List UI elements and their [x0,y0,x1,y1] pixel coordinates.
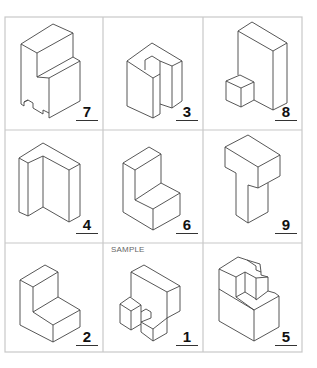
figure-number-1: 1 [176,329,198,346]
isometric-figure-grid [0,0,317,368]
shape-4-drawing [19,143,80,222]
shape-9-drawing [225,135,280,223]
figure-number-2: 2 [76,329,98,346]
figure-number-3: 3 [176,104,198,121]
shape-3-drawing [127,43,182,118]
shape-6-drawing [123,147,180,230]
figure-number-7: 7 [76,104,98,121]
shape-5-drawing [219,257,279,341]
shape-8-drawing [226,22,287,110]
figure-number-6: 6 [176,217,198,234]
figure-number-4: 4 [76,217,98,234]
figure-number-9: 9 [275,217,297,234]
shape-7-drawing [21,24,80,118]
shape-1-drawing [120,265,180,341]
figure-number-5: 5 [275,329,297,346]
figure-number-8: 8 [275,104,297,121]
sample-label: SAMPLE [111,245,145,254]
shape-2-drawing [20,265,80,342]
